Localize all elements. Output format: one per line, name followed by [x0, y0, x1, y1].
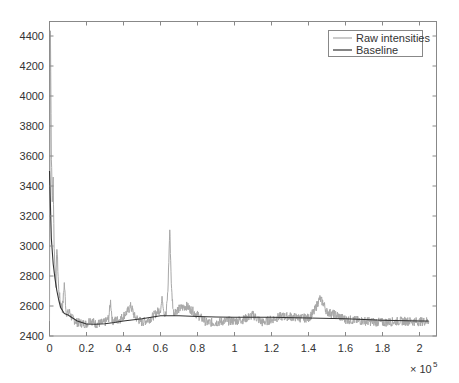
x-tick-label: 2 — [416, 342, 422, 354]
y-tick-label: 3400 — [20, 180, 44, 192]
legend: Raw intensities Baseline — [329, 31, 431, 57]
chart: 2400260028003000320034003600380040004200… — [0, 0, 459, 383]
y-tick-label: 3000 — [20, 240, 44, 252]
y-tick-label: 2400 — [20, 330, 44, 342]
x-exponent-power: 5 — [433, 360, 438, 369]
x-tick-label: 0.8 — [190, 342, 205, 354]
x-tick-label: 1.6 — [338, 342, 353, 354]
x-tick-label: 0.2 — [79, 342, 94, 354]
y-tick-label: 3600 — [20, 150, 44, 162]
plot-area: 2400260028003000320034003600380040004200… — [20, 22, 437, 355]
x-tick-label: 0.6 — [153, 342, 168, 354]
y-tick-label: 3800 — [20, 120, 44, 132]
legend-label-raw: Raw intensities — [356, 32, 430, 44]
y-tick-label: 3200 — [20, 210, 44, 222]
x-exponent-label: × 10 5 — [410, 360, 438, 375]
x-tick-label: 0 — [46, 342, 52, 354]
plot-frame — [50, 22, 437, 337]
y-tick-label: 2600 — [20, 300, 44, 312]
y-tick-label: 2800 — [20, 270, 44, 282]
x-tick-label: 1.8 — [375, 342, 390, 354]
y-tick-label: 4200 — [20, 60, 44, 72]
x-tick-label: 1.4 — [301, 342, 316, 354]
y-tick-label: 4400 — [20, 30, 44, 42]
x-tick-label: 0.4 — [116, 342, 131, 354]
legend-label-baseline: Baseline — [356, 44, 398, 56]
x-tick-label: 1.2 — [264, 342, 279, 354]
x-tick-label: 1 — [231, 342, 237, 354]
y-tick-label: 4000 — [20, 90, 44, 102]
x-exponent-base: × 10 — [410, 363, 432, 375]
